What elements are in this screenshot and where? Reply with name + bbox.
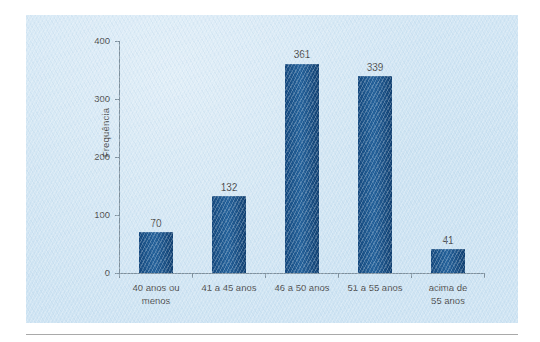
bar-value-label: 70: [126, 218, 186, 229]
figure-stage: Frequência 400 300 200: [0, 0, 540, 342]
x-category-label-line: acima de: [412, 281, 484, 294]
x-category-label: 40 anos ou menos: [120, 281, 192, 307]
y-tick-label: 0: [50, 267, 110, 278]
bar[interactable]: [358, 76, 392, 273]
bar-value-label: 41: [418, 235, 478, 246]
bar[interactable]: [212, 196, 246, 273]
bar-value-label: 339: [345, 62, 405, 73]
y-tick: [115, 157, 120, 158]
x-category-label-line: 51 a 55 anos: [339, 281, 411, 294]
bar[interactable]: [285, 64, 319, 273]
x-category-label: acima de 55 anos: [412, 281, 484, 307]
y-tick-label: 100: [50, 209, 110, 220]
bottom-divider: [26, 334, 518, 335]
y-tick-label: 400: [50, 35, 110, 46]
x-tick: [484, 273, 485, 278]
x-category-label: 46 a 50 anos: [266, 281, 338, 294]
x-tick: [411, 273, 412, 278]
x-category-label: 51 a 55 anos: [339, 281, 411, 294]
x-tick: [192, 273, 193, 278]
y-tick: [115, 41, 120, 42]
y-tick-label: 300: [50, 93, 110, 104]
bar-value-label: 361: [272, 49, 332, 60]
y-tick: [115, 99, 120, 100]
y-tick-label: 200: [50, 151, 110, 162]
bar-value-label: 132: [199, 182, 259, 193]
x-tick: [119, 273, 120, 278]
plot-area: Frequência 400 300 200: [26, 15, 518, 323]
x-category-label: 41 a 45 anos: [193, 281, 265, 294]
bar[interactable]: [139, 232, 173, 273]
bar[interactable]: [431, 249, 465, 273]
x-axis-line: [119, 273, 485, 274]
y-tick: [115, 215, 120, 216]
x-category-label-line: 40 anos ou: [120, 281, 192, 294]
x-category-label-line: 46 a 50 anos: [266, 281, 338, 294]
x-tick: [338, 273, 339, 278]
x-category-label-line: 55 anos: [412, 294, 484, 307]
x-category-label-line: menos: [120, 294, 192, 307]
x-tick: [265, 273, 266, 278]
chart-panel: Frequência 400 300 200: [26, 15, 518, 323]
x-category-label-line: 41 a 45 anos: [193, 281, 265, 294]
